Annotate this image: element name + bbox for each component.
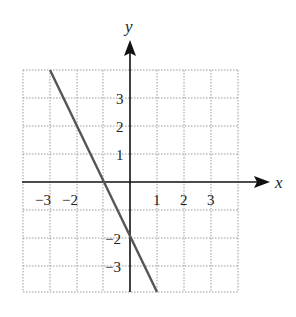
x-tick-label: −3 (35, 192, 51, 208)
x-tick-label: 2 (180, 192, 188, 208)
y-tick-label: −2 (105, 231, 121, 247)
y-tick-label: 3 (116, 91, 124, 107)
x-tick-label: 1 (153, 192, 161, 208)
x-tick-label: 3 (207, 192, 215, 208)
x-axis (22, 176, 270, 188)
y-tick-label: 1 (116, 147, 124, 163)
y-axis-label: y (123, 17, 133, 36)
y-tick-label: 2 (116, 119, 124, 135)
coordinate-plane: x y −3 −2 1 2 3 3 2 1 −2 −3 (0, 0, 296, 317)
x-tick-label: −2 (62, 192, 78, 208)
x-axis-label: x (274, 173, 283, 192)
y-tick-label: −3 (105, 259, 121, 275)
y-axis (124, 40, 136, 292)
